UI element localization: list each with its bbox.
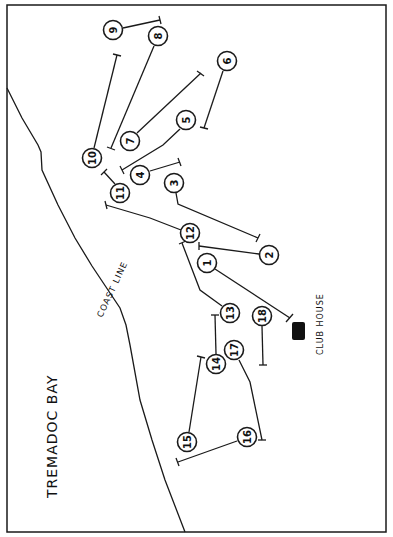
svg-text:1: 1 <box>202 259 213 266</box>
hole-markers: 123456789101112131415161718 <box>83 21 279 452</box>
svg-text:15: 15 <box>182 435 193 449</box>
hole-marker-10: 10 <box>83 149 102 168</box>
svg-text:14: 14 <box>211 357 222 371</box>
svg-text:11: 11 <box>115 186 126 200</box>
hole-marker-7: 7 <box>121 132 140 151</box>
hole-marker-8: 8 <box>149 27 168 46</box>
hole-marker-15: 15 <box>178 433 197 452</box>
svg-text:16: 16 <box>242 430 253 444</box>
svg-text:17: 17 <box>229 343 240 357</box>
hole-marker-1: 1 <box>198 254 217 273</box>
clubhouse: CLUB HOUSE <box>292 293 325 355</box>
svg-text:7: 7 <box>125 137 136 144</box>
hole-marker-16: 16 <box>238 428 257 447</box>
hole-marker-11: 11 <box>111 184 130 203</box>
svg-text:2: 2 <box>264 251 275 258</box>
svg-text:6: 6 <box>222 57 233 64</box>
golf-course-map: CLUB HOUSE TREMADOC BAY COAST LINE 12345… <box>0 0 393 537</box>
map-frame <box>7 5 386 532</box>
hole-marker-14: 14 <box>207 355 226 374</box>
hole-marker-17: 17 <box>225 341 244 360</box>
svg-text:9: 9 <box>108 26 119 33</box>
svg-text:18: 18 <box>257 309 268 323</box>
hole-marker-5: 5 <box>177 111 196 130</box>
clubhouse-icon <box>292 322 305 340</box>
coastline-label: COAST LINE <box>95 260 130 319</box>
hole-marker-3: 3 <box>165 174 184 193</box>
hole-marker-2: 2 <box>260 246 279 265</box>
bay-label: TREMADOC BAY <box>44 375 60 499</box>
svg-text:10: 10 <box>87 151 98 165</box>
svg-text:8: 8 <box>153 32 164 39</box>
svg-text:5: 5 <box>181 116 192 123</box>
clubhouse-label: CLUB HOUSE <box>316 293 325 355</box>
svg-text:3: 3 <box>169 179 180 186</box>
hole-marker-18: 18 <box>253 307 272 326</box>
hole-marker-6: 6 <box>218 52 237 71</box>
svg-text:12: 12 <box>185 226 196 240</box>
hole-marker-4: 4 <box>131 166 150 185</box>
hole-marker-12: 12 <box>181 224 200 243</box>
svg-text:4: 4 <box>135 171 146 178</box>
hole-marker-13: 13 <box>221 304 240 323</box>
svg-text:13: 13 <box>225 306 236 320</box>
hole-marker-9: 9 <box>104 21 123 40</box>
